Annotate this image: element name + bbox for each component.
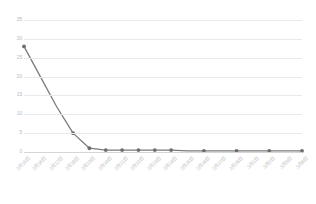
x-tick-label: 2月17日 [47,155,64,172]
x-tick-label: 3月8日 [295,155,310,170]
x-tick-label: 3月1日 [245,155,260,170]
gridline [24,20,302,21]
x-axis: 2月15日2月16日2月17日2月18日2月19日2月20日2月21日2月22日… [24,153,302,203]
y-tick-label: 30 [2,36,22,41]
y-tick-label: 35 [2,17,22,22]
gridline [24,58,302,59]
y-tick-label: 5 [2,130,22,135]
x-tick-label: 2月15日 [15,155,32,172]
plot-area [24,20,302,152]
y-tick-label: 15 [2,92,22,97]
y-tick-label: 10 [2,111,22,116]
series-polyline [24,46,302,150]
x-tick-label: 2月24日 [162,155,179,172]
y-tick-label: 25 [2,55,22,60]
gridline [24,114,302,115]
x-tick-label: 2月25日 [178,155,195,172]
x-tick-label: 3月2日 [262,155,277,170]
x-tick-label: 2月28日 [227,155,244,172]
y-tick-label: 0 [2,149,22,154]
x-tick-label: 2月26日 [195,155,212,172]
data-point-marker [88,146,92,150]
gridline [24,77,302,78]
x-tick-label: 3月3日 [278,155,293,170]
data-point-marker [22,45,26,49]
x-tick-label: 2月19日 [80,155,97,172]
line-chart: 05101520253035 2月15日2月16日2月17日2月18日2月19日… [0,0,316,204]
x-tick-label: 2月16日 [31,155,48,172]
x-tick-label: 2月23日 [146,155,163,172]
y-axis: 05101520253035 [0,20,22,152]
x-tick-label: 2月20日 [96,155,113,172]
x-tick-label: 2月27日 [211,155,228,172]
y-tick-label: 20 [2,74,22,79]
x-tick-label: 2月18日 [64,155,81,172]
gridline [24,133,302,134]
x-tick-label: 2月22日 [129,155,146,172]
gridline [24,95,302,96]
gridline [24,39,302,40]
x-tick-label: 2月21日 [113,155,130,172]
